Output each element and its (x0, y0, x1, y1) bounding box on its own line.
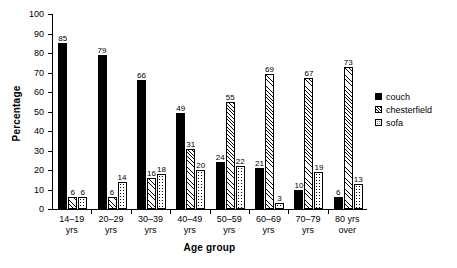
legend-label: chesterfield (386, 105, 432, 115)
y-axis-tick-label: 100 (20, 10, 44, 19)
bar-value-label: 85 (58, 34, 67, 43)
bar-value-label: 20 (196, 161, 205, 170)
bar-group: 79614 (98, 14, 127, 209)
y-axis-tick-mark (48, 170, 52, 171)
y-axis-tick-label: 40 (20, 127, 44, 136)
bar-sofa: 18 (157, 174, 166, 209)
y-axis-line (52, 14, 53, 210)
y-axis-tick-label: 10 (20, 186, 44, 195)
y-axis-tick-label: 70 (20, 69, 44, 78)
bar-group: 21693 (255, 14, 284, 209)
y-axis-tick-mark (48, 209, 52, 210)
bar-sofa: 19 (314, 172, 323, 209)
x-axis-category-label: 60–69 yrs (249, 214, 288, 236)
bar-value-label: 79 (98, 46, 107, 55)
y-axis-tick-label: 50 (20, 108, 44, 117)
y-axis-tick-labels: 0102030405060708090100 (20, 0, 44, 268)
legend-swatch-icon (375, 106, 382, 113)
y-axis-tick-mark (48, 112, 52, 113)
y-axis-tick-mark (48, 53, 52, 54)
y-axis-tick-label: 30 (20, 147, 44, 156)
legend-label: couch (386, 92, 410, 102)
bar-couch: 21 (255, 168, 264, 209)
bar-sofa: 20 (196, 170, 205, 209)
y-axis-tick-mark (48, 190, 52, 191)
bar-sofa: 3 (275, 203, 284, 209)
legend-swatch-icon (375, 119, 382, 126)
bar-value-label: 31 (186, 140, 195, 149)
x-axis-category-label: 70–79 yrs (288, 214, 327, 236)
bar-chesterfield: 6 (108, 197, 117, 209)
y-axis-tick-mark (48, 34, 52, 35)
bar-value-label: 13 (354, 175, 363, 184)
bar-group: 67313 (334, 14, 363, 209)
bar-couch: 66 (137, 80, 146, 209)
y-axis-tick-mark (48, 14, 52, 15)
bar-value-label: 21 (255, 159, 264, 168)
y-axis-tick-mark (48, 92, 52, 93)
bar-chart: Percentage 0102030405060708090100 856679… (0, 0, 457, 268)
bar-value-label: 73 (344, 58, 353, 67)
bar-chesterfield: 6 (68, 197, 77, 209)
bar-couch: 79 (98, 55, 107, 209)
bar-group: 661618 (137, 14, 166, 209)
bar-value-label: 10 (294, 181, 303, 190)
y-axis-tick-label: 20 (20, 166, 44, 175)
bar-couch: 24 (216, 162, 225, 209)
x-axis-category-label: 14–19 yrs (52, 214, 91, 236)
bar-value-label: 24 (216, 153, 225, 162)
legend-label: sofa (386, 118, 403, 128)
x-axis-title: Age group (52, 242, 367, 253)
bar-value-label: 69 (265, 65, 274, 74)
bar-value-label: 3 (277, 194, 281, 203)
bar-chesterfield: 16 (147, 178, 156, 209)
bar-value-label: 18 (157, 165, 166, 174)
bar-chesterfield: 73 (344, 67, 353, 209)
bar-value-label: 22 (236, 157, 245, 166)
x-axis-category-label: 50–59 yrs (210, 214, 249, 236)
y-axis-tick-mark (48, 151, 52, 152)
x-axis-category-label: 40–49 yrs (170, 214, 209, 236)
x-axis-category-label: 80 yrs over (328, 214, 367, 236)
bar-value-label: 67 (304, 69, 313, 78)
y-axis-tick-label: 80 (20, 49, 44, 58)
chart-legend: couchchesterfieldsofa (375, 90, 457, 129)
bar-chesterfield: 31 (186, 149, 195, 209)
legend-swatch-icon (375, 93, 382, 100)
bar-value-label: 19 (314, 163, 323, 172)
bar-value-label: 6 (80, 188, 84, 197)
bar-chesterfield: 69 (265, 74, 274, 209)
bar-value-label: 66 (137, 71, 146, 80)
y-axis-tick-mark (48, 73, 52, 74)
x-axis-category-label: 30–39 yrs (131, 214, 170, 236)
bar-group: 493120 (176, 14, 205, 209)
legend-item-sofa[interactable]: sofa (375, 116, 457, 129)
bar-value-label: 49 (176, 104, 185, 113)
bar-group: 245522 (216, 14, 245, 209)
bar-value-label: 6 (70, 188, 74, 197)
bar-group: 106719 (294, 14, 323, 209)
bar-value-label: 6 (336, 188, 340, 197)
bar-value-label: 16 (147, 169, 156, 178)
y-axis-tick-label: 0 (20, 205, 44, 214)
bar-sofa: 22 (236, 166, 245, 209)
plot-area: 8566796146616184931202455222169310671967… (52, 14, 367, 210)
bar-value-label: 14 (118, 173, 127, 182)
bar-sofa: 13 (354, 184, 363, 209)
bar-couch: 6 (334, 197, 343, 209)
x-axis-category-label: 20–29 yrs (91, 214, 130, 236)
bar-chesterfield: 67 (304, 78, 313, 209)
y-axis-tick-label: 90 (20, 30, 44, 39)
legend-item-couch[interactable]: couch (375, 90, 457, 103)
bar-value-label: 6 (110, 188, 114, 197)
bar-value-label: 55 (226, 93, 235, 102)
bar-sofa: 14 (118, 182, 127, 209)
bar-sofa: 6 (78, 197, 87, 209)
bar-chesterfield: 55 (226, 102, 235, 209)
bar-couch: 49 (176, 113, 185, 209)
bar-couch: 85 (58, 43, 67, 209)
bar-couch: 10 (294, 190, 303, 210)
y-axis-tick-mark (48, 131, 52, 132)
legend-item-chesterfield[interactable]: chesterfield (375, 103, 457, 116)
bar-group: 8566 (58, 14, 87, 209)
